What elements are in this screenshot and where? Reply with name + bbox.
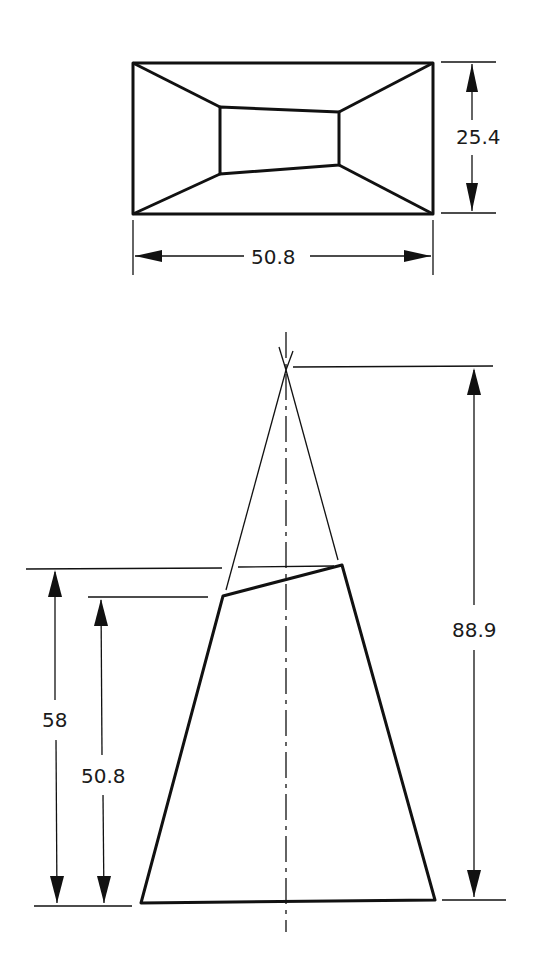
dimension-label-58: 58 <box>42 708 67 732</box>
dimension-label-50-8-width: 50.8 <box>251 245 296 269</box>
arrow-left-icon <box>135 250 162 262</box>
arrow-up-icon <box>94 599 108 626</box>
arrow-up-icon <box>48 570 62 597</box>
top-view-edge-br <box>339 165 433 214</box>
arrow-down-icon <box>466 183 478 211</box>
arrow-up-icon <box>467 368 481 395</box>
arrow-down-icon <box>97 876 111 903</box>
arrow-up-icon <box>466 64 478 92</box>
top-view-edge-tl <box>133 63 220 107</box>
front-view: 88.9 58 50.8 <box>26 332 506 932</box>
arrow-down-icon <box>50 876 64 903</box>
arrow-right-icon <box>404 250 431 262</box>
dimension-label-25-4: 25.4 <box>456 125 501 149</box>
top-view: 25.4 50.8 <box>133 62 501 275</box>
dimension-58: 58 <box>26 566 334 906</box>
frustum-outline <box>141 565 435 903</box>
technical-drawing: 25.4 50.8 <box>0 0 537 978</box>
construction-line-left <box>226 370 286 590</box>
top-view-edge-tr <box>339 63 433 112</box>
construction-line-right <box>286 370 338 560</box>
dimension-50-8-height: 50.8 <box>81 597 208 903</box>
dimension-25-4: 25.4 <box>441 62 501 213</box>
top-view-inner-face <box>220 107 339 174</box>
arrow-down-icon <box>467 870 481 897</box>
dimension-50-8-width: 50.8 <box>133 220 433 275</box>
top-view-edge-bl <box>133 174 220 214</box>
dimension-label-88-9: 88.9 <box>452 618 497 642</box>
dimension-label-50-8-height: 50.8 <box>81 764 126 788</box>
dimension-88-9: 88.9 <box>293 366 506 900</box>
